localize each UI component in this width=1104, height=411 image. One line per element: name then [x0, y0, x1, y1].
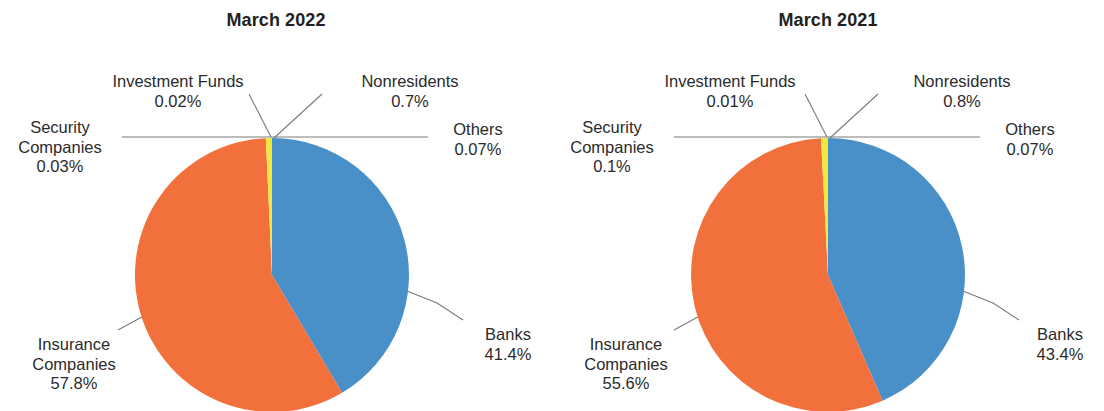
label-security-companies-value: 0.1% [552, 157, 672, 177]
label-others: Others 0.07% [430, 120, 526, 159]
label-security-companies-value: 0.03% [0, 157, 120, 177]
label-banks-value: 41.4% [470, 345, 546, 365]
label-insurance-companies: Insurance Companies 57.8% [8, 335, 140, 394]
label-banks: Banks 41.4% [470, 325, 546, 364]
label-banks-name: Banks [1037, 325, 1083, 343]
label-banks-value: 43.4% [1022, 345, 1098, 365]
label-investment-funds: Investment Funds 0.01% [640, 72, 820, 111]
label-others-name: Others [453, 120, 503, 138]
label-nonresidents-name: Nonresidents [361, 72, 458, 90]
pie-slices-march-2022 [135, 138, 409, 411]
label-insurance-companies-name2: Companies [8, 355, 140, 375]
label-security-companies-name: Security [582, 118, 642, 136]
chart-panel-march-2021: March 2021 Security Companies 0.1% Inves… [552, 0, 1104, 411]
label-investment-funds-value: 0.01% [640, 92, 820, 112]
pie-slices-march-2021 [691, 138, 965, 411]
label-security-companies: Security Companies 0.1% [552, 118, 672, 177]
label-investment-funds-name: Investment Funds [112, 72, 243, 90]
label-security-companies-name: Security [30, 118, 90, 136]
label-insurance-companies: Insurance Companies 55.6% [560, 335, 692, 394]
label-nonresidents-value: 0.8% [882, 92, 1042, 112]
label-investment-funds: Investment Funds 0.02% [88, 72, 268, 111]
label-nonresidents: Nonresidents 0.8% [882, 72, 1042, 111]
label-nonresidents-value: 0.7% [330, 92, 490, 112]
label-insurance-companies-name: Insurance [590, 335, 662, 353]
label-banks: Banks 43.4% [1022, 325, 1098, 364]
label-others-value: 0.07% [430, 140, 526, 160]
label-others-name: Others [1005, 120, 1055, 138]
label-investment-funds-value: 0.02% [88, 92, 268, 112]
label-insurance-companies-name2: Companies [560, 355, 692, 375]
chart-panel-march-2022: March 2022 Security Companies [0, 0, 552, 411]
label-security-companies-name2: Companies [552, 138, 672, 158]
label-insurance-companies-value: 55.6% [560, 374, 692, 394]
pie-chart-figure: March 2022 Security Companies [0, 0, 1104, 411]
label-nonresidents: Nonresidents 0.7% [330, 72, 490, 111]
label-investment-funds-name: Investment Funds [664, 72, 795, 90]
label-others-value: 0.07% [982, 140, 1078, 160]
label-security-companies: Security Companies 0.03% [0, 118, 120, 177]
label-banks-name: Banks [485, 325, 531, 343]
label-security-companies-name2: Companies [0, 138, 120, 158]
label-insurance-companies-value: 57.8% [8, 374, 140, 394]
label-others: Others 0.07% [982, 120, 1078, 159]
label-nonresidents-name: Nonresidents [913, 72, 1010, 90]
leader-line-nonresidents [274, 94, 322, 138]
leader-line-nonresidents [830, 94, 878, 138]
label-insurance-companies-name: Insurance [38, 335, 110, 353]
